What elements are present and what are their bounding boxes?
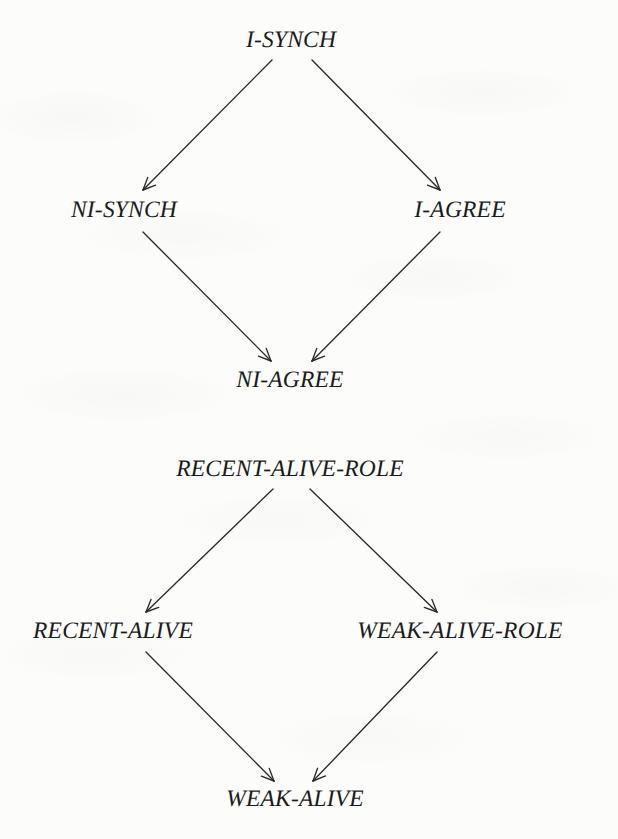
node-ni-synch: NI-SYNCH [71,199,177,223]
node-recent-alive-role: RECENT-ALIVE-ROLE [176,458,404,482]
node-weak-alive: WEAK-ALIVE [226,788,364,812]
paper-texture [0,0,618,839]
edge-arrow-recent-alive-to-weak-alive [146,652,274,781]
edge-arrow-i-synch-to-ni-synch [143,60,272,190]
edge-arrow-ni-synch-to-ni-agree [143,232,271,361]
node-weak-alive-role: WEAK-ALIVE-ROLE [357,620,562,644]
edge-arrow-recent-alive-role-to-recent-alive [146,489,273,612]
edge-arrow-recent-alive-role-to-weak-alive-role [310,489,437,612]
node-i-agree: I-AGREE [414,199,505,223]
node-ni-agree: NI-AGREE [236,369,343,393]
edge-arrow-i-synch-to-i-agree [312,60,440,190]
node-recent-alive: RECENT-ALIVE [33,620,193,644]
node-i-synch: I-SYNCH [246,29,336,53]
edge-arrow-weak-alive-role-to-weak-alive [313,652,437,781]
figure-page: I-SYNCHNI-SYNCHI-AGREENI-AGREERECENT-ALI… [0,0,618,839]
edge-arrow-i-agree-to-ni-agree [312,232,440,361]
edge-layer [0,0,618,839]
